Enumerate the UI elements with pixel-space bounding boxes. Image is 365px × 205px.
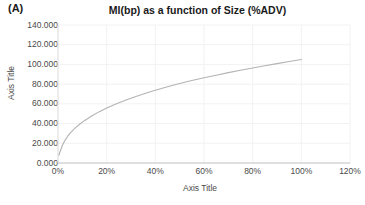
plot-canvas bbox=[0, 0, 365, 205]
gridlines bbox=[58, 25, 350, 163]
chart-figure: (A) MI(bp) as a function of Size (%ADV) … bbox=[0, 0, 365, 205]
series-line-mi bbox=[59, 60, 301, 156]
